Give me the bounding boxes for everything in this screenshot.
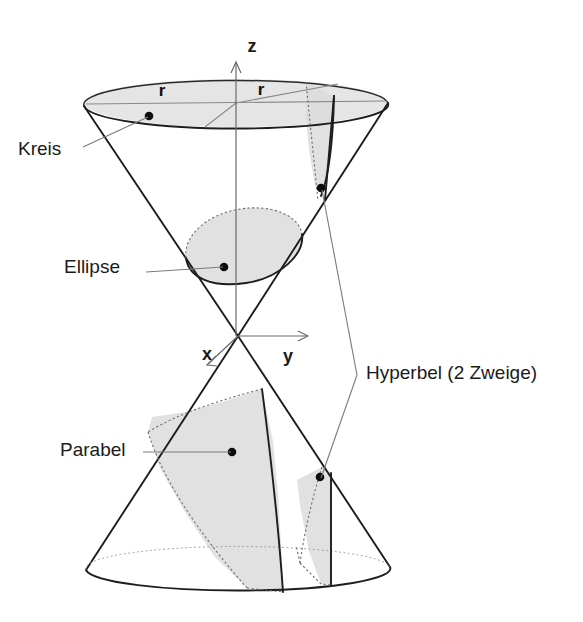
label-radius-right: r — [258, 80, 265, 99]
hyperbola-lower-marker-dot — [316, 473, 325, 482]
hyperbola-upper-marker-dot — [317, 184, 326, 193]
hyperbel-leader-line-lower — [321, 375, 357, 478]
label-axis-y: y — [283, 346, 293, 366]
cone-diagram-svg: Kreis Ellipse Parabel Hyperbel (2 Zweige… — [0, 0, 583, 622]
parabola-section-fill — [148, 389, 283, 592]
hyperbola-lower-left-edge — [296, 545, 300, 563]
hyperbola-lower-section-fill — [297, 467, 331, 585]
ellipse-section-fill — [186, 208, 302, 284]
label-axis-x: x — [202, 344, 212, 364]
label-hyperbel: Hyperbel (2 Zweige) — [366, 362, 537, 383]
kreis-leader-line — [83, 117, 148, 147]
label-axis-z: z — [248, 36, 257, 56]
label-radius-left: r — [159, 81, 166, 100]
label-ellipse: Ellipse — [64, 256, 120, 277]
hyperbel-leader-line-upper — [322, 190, 357, 375]
label-kreis: Kreis — [18, 138, 61, 159]
label-parabel: Parabel — [60, 439, 126, 460]
conic-sections-figure: Kreis Ellipse Parabel Hyperbel (2 Zweige… — [0, 0, 583, 622]
circle-marker-dot — [145, 112, 154, 121]
